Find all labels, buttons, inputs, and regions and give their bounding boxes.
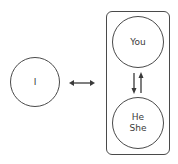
node-you: You [112, 16, 164, 68]
down-up-arrows-icon [130, 71, 146, 95]
node-i: I [10, 57, 60, 107]
node-i-label: I [34, 77, 37, 88]
node-you-label: You [130, 37, 146, 48]
bidirectional-arrow-icon [68, 78, 96, 88]
node-she-label: She [130, 123, 147, 134]
node-he-label: He [132, 112, 144, 123]
node-he-she: He She [112, 97, 164, 149]
